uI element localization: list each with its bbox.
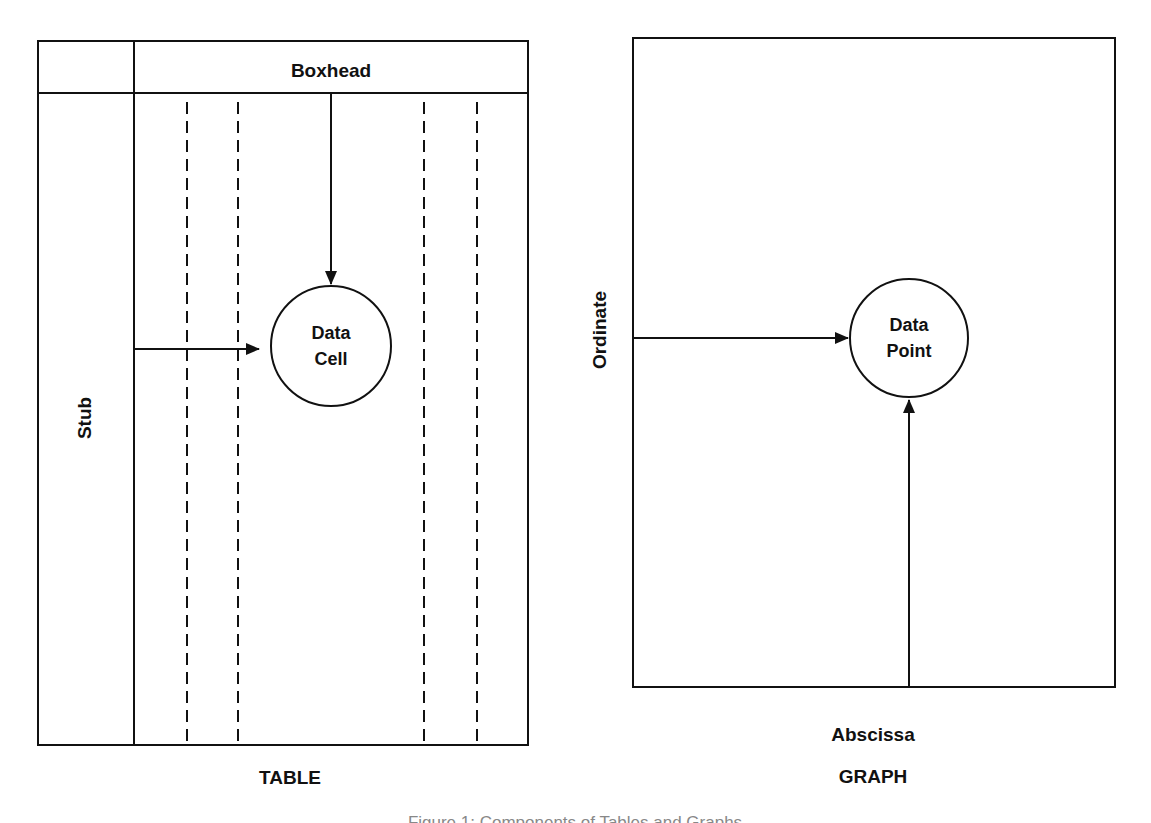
boxhead-label: Boxhead (134, 48, 528, 93)
stub-label: Stub (74, 397, 96, 439)
data-cell-label: Data Cell (271, 286, 391, 406)
figure-caption: Figure 1: Components of Tables and Graph… (275, 812, 875, 823)
diagram-canvas (0, 0, 1151, 823)
abscissa-label: Abscissa (773, 724, 973, 746)
table-outer-frame (38, 41, 528, 745)
table-caption: TABLE (190, 767, 390, 789)
data-cell-line-2: Cell (314, 346, 347, 372)
data-point-line-2: Point (887, 338, 932, 364)
data-point-line-1: Data (889, 312, 928, 338)
data-point-label: Data Point (850, 279, 968, 397)
graph-caption: GRAPH (773, 766, 973, 788)
table-diagram (38, 41, 528, 745)
data-cell-line-1: Data (311, 320, 350, 346)
ordinate-label: Ordinate (589, 291, 611, 369)
